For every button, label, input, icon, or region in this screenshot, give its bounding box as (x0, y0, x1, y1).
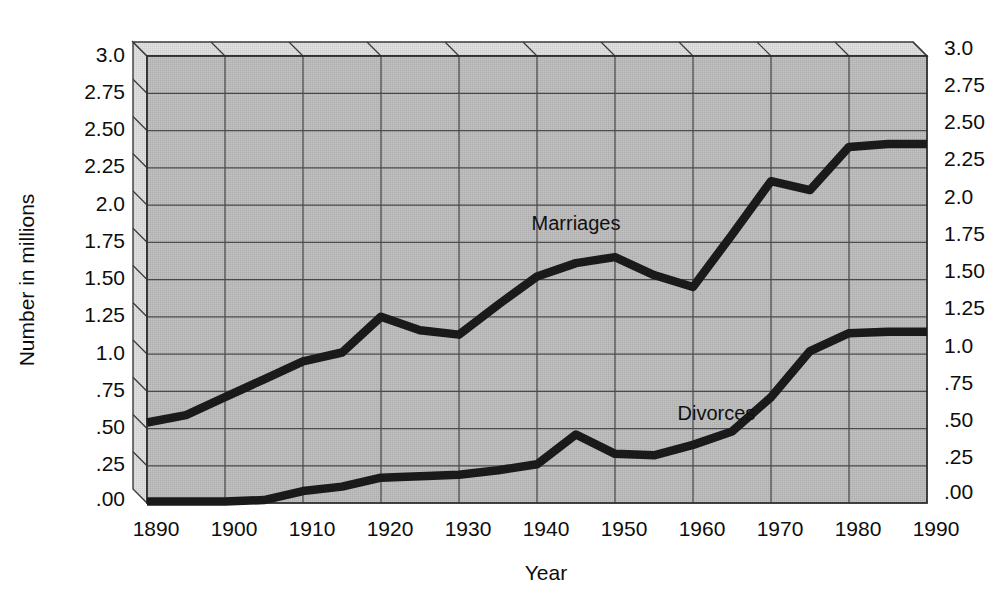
series-annotation-divorces: Divorces (678, 402, 756, 424)
y-tick-left-2: 2.50 (84, 117, 125, 140)
x-tick-1: 1900 (211, 517, 258, 540)
x-tick-3: 1920 (367, 517, 414, 540)
y-tick-right-4: 2.0 (944, 185, 973, 208)
y-tick-left-5: 1.75 (84, 229, 125, 252)
series-annotation-marriages: Marriages (532, 212, 621, 234)
y-tick-right-5: 1.75 (944, 222, 985, 245)
y-tick-right-11: .25 (944, 445, 973, 468)
x-tick-8: 1970 (757, 517, 804, 540)
y-tick-left-9: .75 (96, 378, 125, 401)
y-tick-left-1: 2.75 (84, 80, 125, 103)
y-tick-left-3: 2.25 (84, 154, 125, 177)
y-tick-left-12: .00 (96, 487, 125, 510)
x-tick-10: 1990 (913, 517, 960, 540)
y-tick-right-8: 1.0 (944, 334, 973, 357)
y-tick-right-9: .75 (944, 371, 973, 394)
y-tick-left-10: .50 (96, 415, 125, 438)
y-tick-right-0: 3.0 (944, 36, 973, 59)
y-axis-title: Number in millions (15, 194, 38, 367)
line-chart: 3.0 2.75 2.50 2.25 2.0 1.75 1.50 1.25 1.… (0, 0, 996, 614)
y-tick-right-1: 2.75 (944, 73, 985, 96)
x-tick-0: 1890 (133, 517, 180, 540)
y-tick-right-10: .50 (944, 408, 973, 431)
y-tick-left-6: 1.50 (84, 266, 125, 289)
x-axis-ticks: 1890 1900 1910 1920 1930 1940 1950 1960 … (133, 517, 960, 540)
x-tick-7: 1960 (679, 517, 726, 540)
y-tick-left-7: 1.25 (84, 303, 125, 326)
x-tick-9: 1980 (835, 517, 882, 540)
x-tick-4: 1930 (445, 517, 492, 540)
y-tick-right-2: 2.50 (944, 110, 985, 133)
y-tick-right-3: 2.25 (944, 147, 985, 170)
y-tick-left-8: 1.0 (96, 341, 125, 364)
y-tick-left-11: .25 (96, 452, 125, 475)
y-tick-left-4: 2.0 (96, 192, 125, 215)
x-tick-2: 1910 (289, 517, 336, 540)
y-tick-right-12: .00 (944, 480, 973, 503)
x-tick-5: 1940 (523, 517, 570, 540)
chart-root: 3.0 2.75 2.50 2.25 2.0 1.75 1.50 1.25 1.… (0, 0, 996, 614)
x-axis-title: Year (525, 561, 567, 584)
y-tick-right-7: 1.25 (944, 296, 985, 319)
y-tick-left-0: 3.0 (96, 43, 125, 66)
y-tick-right-6: 1.50 (944, 259, 985, 282)
x-tick-6: 1950 (601, 517, 648, 540)
